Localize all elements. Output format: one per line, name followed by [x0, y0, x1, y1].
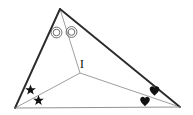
diagram-background [0, 0, 193, 115]
incenter-label: I [80, 56, 84, 71]
triangle-incenter-svg: I [0, 0, 193, 115]
geometry-diagram: I [0, 0, 193, 115]
